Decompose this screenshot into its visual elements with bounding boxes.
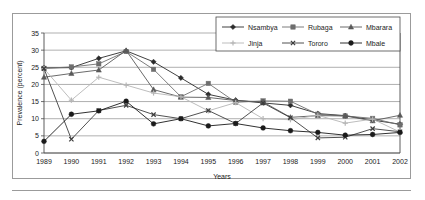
ytick-label-5: 5 [35, 132, 39, 139]
xtick-label-2000: 2000 [337, 158, 353, 165]
point-rubaga-1991 [97, 62, 101, 66]
series-tororo [42, 67, 402, 142]
point-mbale-1997 [261, 126, 266, 131]
legend-marker-mbale [349, 41, 354, 46]
point-mbale-1999 [315, 130, 320, 135]
point-mbale-1998 [288, 128, 293, 133]
legend-label-nsambya: Nsambya [248, 24, 278, 32]
point-mbale-1992 [124, 99, 129, 104]
ytick-label-20: 20 [31, 81, 39, 88]
point-nsambya-1991 [96, 56, 101, 61]
ytick-label-15: 15 [31, 98, 39, 105]
point-rubaga-1998 [288, 99, 292, 103]
point-mbale-1989 [42, 139, 47, 144]
point-tororo-1990 [69, 137, 73, 141]
point-mbale-1996 [233, 121, 238, 126]
xtick-label-1993: 1993 [146, 158, 162, 165]
point-nsambya-1994 [178, 75, 183, 80]
legend-label-jinja: Jinja [248, 40, 263, 48]
series-mbale [42, 99, 403, 144]
xtick-label-1996: 1996 [228, 158, 244, 165]
point-jinja-1997 [260, 116, 265, 121]
point-mbale-1991 [96, 108, 101, 113]
x-axis-title: Years [213, 173, 231, 180]
y-axis-title: Prevalence (percent) [16, 61, 24, 126]
xtick-label-1994: 1994 [173, 158, 189, 165]
legend-label-rubaga: Rubaga [308, 24, 333, 32]
ytick-label-0: 0 [35, 150, 39, 157]
point-mbale-2002 [398, 130, 403, 135]
xtick-label-1989: 1989 [36, 158, 52, 165]
legend-label-mbale: Mbale [366, 40, 385, 47]
point-nsambya-1993 [151, 59, 156, 64]
legend-label-mbarara: Mbarara [366, 24, 392, 31]
legend-marker-rubaga [291, 25, 295, 29]
legend: NsambyaRubagaMbararaJinjaTororoMbale [216, 17, 400, 51]
point-mbale-2000 [343, 133, 348, 138]
xtick-label-1998: 1998 [283, 158, 299, 165]
ytick-label-10: 10 [31, 115, 39, 122]
point-mbale-2001 [370, 132, 375, 137]
point-mbale-1994 [179, 116, 184, 121]
xtick-label-1999: 1999 [310, 158, 326, 165]
point-mbale-1990 [69, 112, 74, 117]
ytick-label-35: 35 [31, 30, 39, 37]
xtick-label-1991: 1991 [91, 158, 107, 165]
point-mbarara-1991 [96, 67, 101, 72]
point-mbarara-2002 [397, 113, 402, 118]
point-mbale-1993 [151, 121, 156, 126]
legend-label-tororo: Tororo [308, 40, 328, 47]
xtick-label-1997: 1997 [255, 158, 271, 165]
x-tick-labels: 1989199019911992199319941995199619971998… [36, 158, 408, 165]
figure-container: 0510152025303519891990199119921993199419… [0, 0, 425, 200]
xtick-label-1990: 1990 [64, 158, 80, 165]
point-rubaga-1990 [69, 65, 73, 69]
series-nsambya [41, 48, 402, 127]
point-jinja-2000 [343, 121, 348, 126]
line-chart: 0510152025303519891990199119921993199419… [0, 0, 425, 200]
xtick-label-2002: 2002 [392, 158, 408, 165]
line-tororo [44, 69, 400, 140]
ytick-label-25: 25 [31, 64, 39, 71]
point-rubaga-1995 [206, 81, 210, 85]
xtick-label-1995: 1995 [201, 158, 217, 165]
xtick-label-1992: 1992 [118, 158, 134, 165]
point-rubaga-2002 [398, 123, 402, 127]
point-mbale-1995 [206, 124, 211, 129]
xtick-label-2001: 2001 [365, 158, 381, 165]
series-group [41, 48, 402, 144]
series-rubaga [42, 49, 402, 127]
point-jinja-1992 [124, 83, 129, 88]
ytick-label-30: 30 [31, 47, 39, 54]
point-rubaga-1993 [151, 67, 155, 71]
